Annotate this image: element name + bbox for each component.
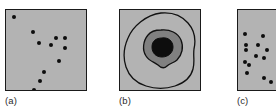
data-point: [256, 43, 260, 47]
panel-b-contour-map: [119, 9, 201, 91]
data-point: [245, 71, 249, 75]
panel-c-point-pattern: [237, 9, 276, 91]
data-point: [265, 48, 269, 52]
data-point: [57, 59, 61, 63]
data-point: [262, 56, 266, 60]
nested-contour-graphic: [120, 10, 201, 91]
data-point: [31, 30, 35, 34]
panel-b-caption: (b): [119, 95, 131, 107]
data-point: [244, 48, 248, 52]
panel-a-caption: (a): [5, 95, 17, 107]
data-point: [243, 32, 247, 36]
data-point: [12, 15, 16, 19]
data-point: [63, 46, 67, 50]
data-point: [247, 63, 251, 67]
figure-panel-group: (a) (b): [0, 0, 276, 112]
peak-core-path: [152, 38, 173, 57]
data-point: [261, 34, 265, 38]
panel-c-caption: (c): [237, 95, 248, 107]
panel-a-point-pattern: [5, 9, 87, 91]
data-point: [244, 43, 248, 47]
data-point: [49, 43, 53, 47]
data-point: [32, 88, 36, 91]
data-point: [42, 70, 46, 74]
data-point: [269, 80, 273, 84]
data-point: [262, 76, 266, 80]
data-point: [38, 79, 42, 83]
panel-c-plot-area: [238, 10, 276, 90]
panel-a-plot-area: [6, 10, 86, 90]
data-point: [37, 41, 41, 45]
data-point: [63, 36, 67, 40]
panel-b-plot-area: [120, 10, 200, 90]
data-point: [254, 54, 258, 58]
data-point: [54, 36, 58, 40]
